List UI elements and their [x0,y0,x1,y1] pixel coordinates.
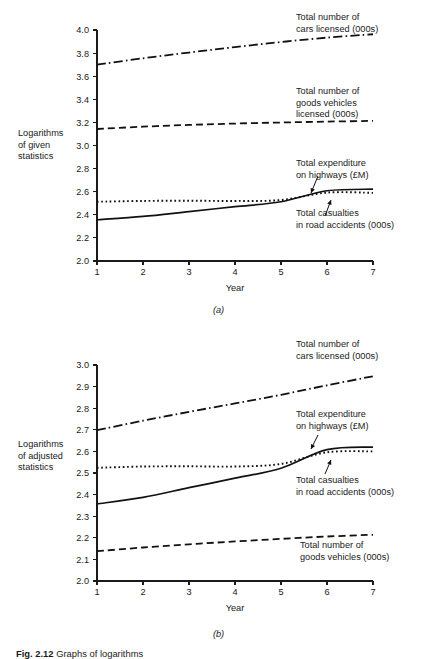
x-axis-tick-label: 7 [370,587,375,597]
text-line: cars licensed (000s) [296,351,378,363]
text-line: Total number of [296,12,378,24]
y-axis-tick-label: 4.0 [76,25,89,35]
series-line-2 [97,451,373,468]
text-line: in road accidents (000s) [296,220,394,232]
series-line-3 [97,192,373,202]
y-axis-tick-label: 2.2 [76,233,89,243]
chart-a-y-axis-label: Logarithmsof givenstatistics [18,128,63,163]
text-line: of given [18,140,63,152]
panel-letter-a: (a) [0,305,437,315]
text-line: Total number of [296,86,359,98]
text-line: on highways (£M) [296,421,369,433]
annotation-cars-licensed-a: Total number ofcars licensed (000s) [296,12,378,35]
text-line: Logarithms [18,128,63,140]
y-axis-tick-label: 2.5 [76,468,89,478]
chart-panel-a: 2.02.22.42.62.83.03.23.43.63.84.01234567… [0,0,437,330]
x-axis-title: Year [226,603,245,613]
y-axis-tick-label: 2.0 [76,256,89,266]
x-axis-tick-label: 4 [232,267,237,277]
series-line-0 [97,34,373,64]
panel-letter-b: (b) [0,629,437,639]
text-line: in road accidents (000s) [296,487,394,499]
text-line: Total expenditure [296,409,369,421]
text-line: on highways (£M) [296,170,369,182]
y-axis-tick-label: 3.6 [76,72,89,82]
y-axis-tick-label: 2.0 [76,576,89,586]
x-axis-tick-label: 4 [232,587,237,597]
y-axis-tick-label: 2.2 [76,533,89,543]
x-axis-tick-label: 1 [94,267,99,277]
annotation-goods-vehicles-b: Total number ofgoods vehicles (000s) [300,540,389,563]
annotation-casualties-b: Total casualtiesin road accidents (000s) [296,475,394,498]
y-axis-tick-label: 2.8 [76,164,89,174]
annotation-cars-licensed-b: Total number ofcars licensed (000s) [296,339,378,362]
annotation-goods-vehicles-a: Total number ofgoods vehicleslicensed (0… [296,86,359,121]
y-axis-tick-label: 2.4 [76,490,89,500]
annotation-casualties-a: Total casualtiesin road accidents (000s) [296,208,394,231]
text-line: Total number of [296,339,378,351]
text-line: statistics [18,151,63,163]
text-line: Total casualties [296,208,394,220]
x-axis-title: Year [226,283,245,293]
x-axis-tick-label: 6 [324,267,329,277]
text-line: of adjusted [18,451,63,463]
text-line: Total casualties [296,475,394,487]
chart-b-y-axis-label: Logarithmsof adjustedstatistics [18,439,63,474]
series-line-1 [97,121,373,129]
chart-panel-b: 2.02.12.22.32.42.52.62.72.82.93.01234567… [0,327,437,627]
x-axis-tick-label: 7 [370,267,375,277]
y-axis-tick-label: 3.4 [76,95,89,105]
figure-caption: Fig. 2.12 Graphs of logarithms [16,648,143,659]
x-axis-tick-label: 1 [94,587,99,597]
y-axis-tick-label: 2.4 [76,210,89,220]
x-axis-tick-label: 2 [140,267,145,277]
y-axis-tick-label: 3.8 [76,49,89,59]
y-axis-tick-label: 3.0 [76,360,89,370]
y-axis-tick-label: 3.2 [76,118,89,128]
y-axis-tick-label: 2.3 [76,512,89,522]
text-line: goods vehicles (000s) [300,552,389,564]
y-axis-tick-label: 2.7 [76,425,89,435]
y-axis-tick-label: 2.6 [76,187,89,197]
text-line: Logarithms [18,439,63,451]
text-line: goods vehicles [296,98,359,110]
y-axis-tick-label: 3.0 [76,141,89,151]
x-axis-tick-label: 5 [278,587,283,597]
x-axis-tick-label: 3 [186,587,191,597]
text-line: Total expenditure [296,158,369,170]
y-axis-tick-label: 2.6 [76,447,89,457]
x-axis-tick-label: 6 [324,587,329,597]
x-axis-tick-label: 3 [186,267,191,277]
x-axis-tick-label: 5 [278,267,283,277]
annotation-expenditure-b: Total expenditureon highways (£M) [296,409,369,432]
text-line: statistics [18,462,63,474]
text-line: cars licensed (000s) [296,24,378,36]
text-line: Total number of [300,540,389,552]
text-line: licensed (000s) [296,109,359,121]
y-axis-tick-label: 2.1 [76,555,89,565]
y-axis-tick-label: 2.8 [76,404,89,414]
y-axis-tick-label: 2.9 [76,382,89,392]
chart-a-canvas: 2.02.22.42.62.83.03.23.43.63.84.01234567… [0,0,437,330]
x-axis-tick-label: 2 [140,587,145,597]
annotation-expenditure-a: Total expenditureon highways (£M) [296,158,369,181]
